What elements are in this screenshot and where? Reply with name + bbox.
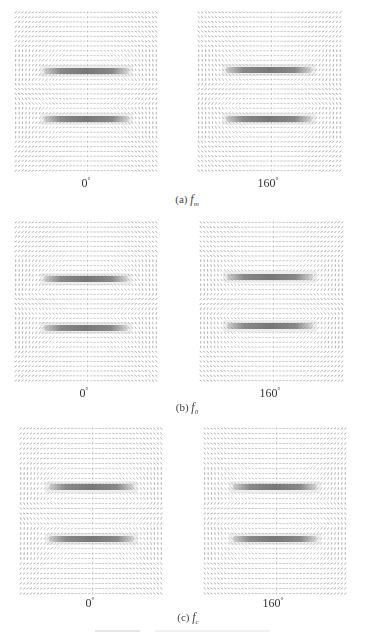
- conductor-bar-bottom: [233, 536, 317, 542]
- field-plot-c-0deg: [19, 426, 163, 596]
- caption-c: (c) fc: [128, 610, 248, 626]
- conductor-bar-bottom: [44, 116, 129, 122]
- conductor-bar-top: [227, 274, 313, 280]
- vector-field: [14, 10, 158, 173]
- angle-label-b-right: 160°: [240, 386, 300, 401]
- angle-label-c-right: 160°: [243, 596, 303, 611]
- field-plot-a-160deg: [197, 10, 342, 173]
- scan-artifact: [155, 630, 270, 632]
- conductor-bar-bottom: [227, 323, 313, 329]
- caption-b: (b) f0: [127, 400, 247, 416]
- vector-field: [19, 426, 163, 596]
- vector-field: [197, 10, 342, 173]
- conductor-bar-top: [49, 484, 134, 490]
- field-plot-b-0deg: [14, 220, 158, 383]
- field-plot-c-160deg: [203, 426, 347, 596]
- field-plot-a-0deg: [14, 10, 158, 173]
- conductor-bar-bottom: [226, 116, 312, 122]
- conductor-bar-top: [44, 276, 128, 282]
- scan-artifact: [95, 630, 140, 632]
- vector-field: [14, 220, 158, 383]
- field-plot-b-160deg: [199, 220, 344, 383]
- angle-label-a-right: 160°: [238, 176, 298, 191]
- conductor-bar-top: [226, 67, 312, 73]
- conductor-bar-bottom: [44, 325, 128, 331]
- angle-label-c-left: 0°: [60, 596, 120, 611]
- angle-label-a-left: 0°: [56, 176, 116, 191]
- caption-a: (a) fm: [127, 192, 247, 208]
- vector-field: [203, 426, 347, 596]
- conductor-bar-top: [44, 68, 129, 74]
- conductor-bar-bottom: [49, 536, 134, 542]
- angle-label-b-left: 0°: [54, 386, 114, 401]
- vector-field: [199, 220, 344, 383]
- conductor-bar-top: [233, 484, 317, 490]
